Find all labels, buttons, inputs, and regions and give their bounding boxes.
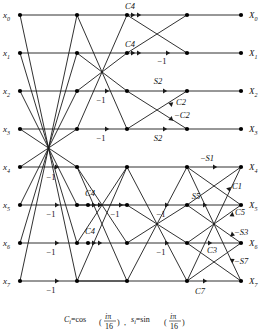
edge-label-s2-top: S2 <box>154 76 163 86</box>
caption-paren-open-2: ( <box>164 318 167 327</box>
edge-label-ns7: −S7 <box>234 256 249 266</box>
edge-label-ns3: −S3 <box>234 227 248 237</box>
dct-flow-graph-figure: x0 x1 x2 x3 x4 x5 x6 x7 X0 X1 X2 X3 X4 X… <box>0 0 265 333</box>
stage1-butterflies <box>20 15 77 281</box>
input-labels: x0 x1 x2 x3 x4 x5 x6 x7 <box>2 10 11 288</box>
edge-label-neg1-row6b: −1 <box>156 247 165 257</box>
output-label-X7: X7 <box>248 276 259 288</box>
output-label-X5: X5 <box>248 200 258 212</box>
stage2-lower-butterflies <box>77 167 127 281</box>
edge-label-c4-row1: C4 <box>125 39 136 49</box>
output-label-X0: X0 <box>248 10 258 22</box>
output-label-X3: X3 <box>248 124 258 136</box>
edge-label-neg1-row7: −1 <box>46 285 55 295</box>
output-label-X4: X4 <box>248 162 258 174</box>
input-label-x2: x2 <box>2 86 10 98</box>
caption-paren-close-1: ) <box>117 318 120 327</box>
edge-label-ns1: −S1 <box>200 153 214 163</box>
output-label-X2: X2 <box>248 86 258 98</box>
output-label-X6: X6 <box>248 238 258 250</box>
edge-label-c4-row5: C4 <box>85 188 96 198</box>
edge-label-neg1-row3: −1 <box>96 133 105 143</box>
edge-label-s2-row3: S2 <box>154 133 163 143</box>
caption-paren-close-2: ) <box>182 318 185 327</box>
edge-label-c3: C3 <box>207 245 217 255</box>
caption-frac2-num: iπ <box>170 312 176 321</box>
caption-formula: Ci=cos ( iπ 16 ) , si=sin ( iπ 16 ) <box>64 312 185 331</box>
input-label-x3: x3 <box>2 124 10 136</box>
caption-frac1-den: 16 <box>105 322 113 331</box>
input-label-x7: x7 <box>2 276 11 288</box>
edge-labels: C4 C4 −1 S2 −1 C2 −C2 S2 −1 −1 −S1 C4 −1… <box>46 1 249 296</box>
edge-label-c4-row6: C4 <box>85 226 96 236</box>
input-label-x6: x6 <box>2 238 10 250</box>
edge-label-c1: C1 <box>232 181 242 191</box>
edge-label-neg1-row1: −1 <box>157 56 166 66</box>
edge-label-c2-upper: C2 <box>176 97 187 107</box>
edge-label-neg1-row5b: −1 <box>110 209 119 219</box>
caption-frac1-num: iπ <box>105 312 111 321</box>
edge-label-c7: C7 <box>195 286 206 296</box>
edge-label-c5: C5 <box>235 207 245 217</box>
edge-label-neg1-row5a: −1 <box>46 209 55 219</box>
stage3-lower-crosses <box>127 167 187 281</box>
input-label-x4: x4 <box>2 162 10 174</box>
edge-label-neg1-row2: −1 <box>96 95 105 105</box>
caption-s-term: si=sin <box>131 315 150 325</box>
caption-c-term: Ci=cos <box>64 315 86 325</box>
edge-label-neg1-row5c: −1 <box>156 209 165 219</box>
input-label-x1: x1 <box>2 48 10 60</box>
caption-comma: , <box>124 318 126 327</box>
input-label-x5: x5 <box>2 200 10 212</box>
caption-frac2-den: 16 <box>170 322 178 331</box>
edge-label-neg1-row6a: −1 <box>46 247 55 257</box>
edge-label-neg1-row4: −1 <box>46 172 55 182</box>
input-label-x0: x0 <box>2 10 10 22</box>
edge-label-c4-row0: C4 <box>125 1 136 11</box>
flow-graph-canvas: x0 x1 x2 x3 x4 x5 x6 x7 X0 X1 X2 X3 X4 X… <box>0 0 265 333</box>
edge-label-c2-lower: −C2 <box>174 110 190 120</box>
caption-paren-open-1: ( <box>99 318 102 327</box>
edge-label-s5: S5 <box>192 191 201 201</box>
stage2-upper-butterflies <box>77 15 127 129</box>
edges-layer <box>20 15 241 281</box>
output-labels: X0 X1 X2 X3 X4 X5 X6 X7 <box>248 10 259 288</box>
output-label-X1: X1 <box>248 48 258 60</box>
